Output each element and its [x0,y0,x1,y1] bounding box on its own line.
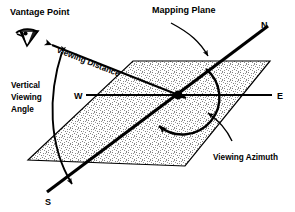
north-south-axis [47,26,268,192]
compass-label-south: S [45,197,51,207]
compass-label-north: N [261,20,268,30]
vertical-viewing-angle-label-line1: Vertical [11,81,40,90]
vertical-viewing-angle-arc [53,52,72,184]
mapping-plane-leader [171,23,208,56]
vertical-viewing-angle-label-line2: Viewing [11,93,42,102]
vantage-point-label: Vantage Point [10,7,70,17]
mapping-plane-label: Mapping Plane [152,5,216,15]
diagram-canvas: Vantage Point Mapping Plane Viewing Dist… [0,0,295,212]
viewing-azimuth-label: Viewing Azimuth [213,153,278,162]
compass-label-west: W [74,91,83,101]
viewing-distance-label: Viewing Distance [55,45,121,78]
viewing-geometry-diagram: Vantage Point Mapping Plane Viewing Dist… [0,0,295,212]
vertical-viewing-angle-label-line3: Angle [11,105,34,114]
intersection-point [174,91,183,100]
compass-label-east: E [277,91,283,101]
eye-icon [16,29,38,46]
